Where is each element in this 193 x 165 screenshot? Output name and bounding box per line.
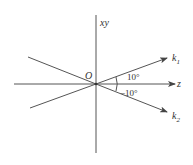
xy-axis-label: xy bbox=[99, 17, 109, 28]
wave-vector-diagram: xy O z k1 k2 10° −10° bbox=[0, 0, 193, 165]
k1-back-line bbox=[30, 84, 96, 108]
z-axis-label: z bbox=[176, 78, 181, 89]
origin-label: O bbox=[85, 70, 92, 81]
k1-label: k1 bbox=[172, 52, 180, 66]
angle-label-positive: 10° bbox=[127, 72, 140, 82]
k2-label: k2 bbox=[172, 110, 180, 124]
angle-label-negative: −10° bbox=[120, 88, 138, 98]
origin-point bbox=[95, 83, 98, 86]
